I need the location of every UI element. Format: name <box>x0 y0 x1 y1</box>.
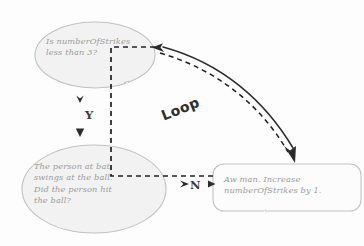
edge-decision-to-process-curve[interactable] <box>160 53 296 163</box>
edge-dashed-guides <box>111 47 213 176</box>
edge-action-to-process[interactable] <box>168 180 216 187</box>
diagram-canvas: Is numberOfStrikes less than 3? The pers… <box>0 0 364 246</box>
diagram-connectors-layer <box>0 0 364 246</box>
edge-decision-to-action[interactable] <box>76 90 84 137</box>
edge-process-to-decision-loop[interactable] <box>152 43 293 148</box>
